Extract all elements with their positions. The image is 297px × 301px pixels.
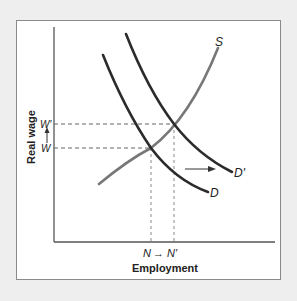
supply-label: S (215, 35, 223, 49)
shift-arrow-head (208, 166, 216, 172)
supply-curve (99, 48, 218, 184)
labor-market-diagram: S D D′ W′ W N → N′ Employment Real wage (0, 0, 297, 301)
x-axis-title: Employment (132, 262, 198, 274)
n-prime-tick-label: N′ (167, 247, 178, 259)
n-arrow: → (153, 247, 164, 259)
n-tick-label: N (143, 247, 151, 259)
w-tick-label: W (41, 143, 52, 154)
shifted-demand-label: D′ (234, 166, 246, 180)
y-axis-title: Real wage (25, 110, 37, 164)
demand-label: D (210, 186, 219, 200)
w-prime-tick-label: W′ (40, 119, 52, 130)
